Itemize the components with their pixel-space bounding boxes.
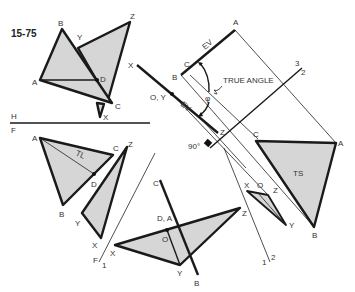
label-b: B [59,210,64,219]
label-x: X [244,181,250,190]
label-b: B [312,231,317,240]
label-x: X [92,241,98,250]
aux3-line-oy [258,193,286,225]
front-point-d [92,172,96,176]
fold-label-1: 1 [102,261,107,270]
fold-label-1: 1 [262,258,267,267]
label-da: D, A [157,214,173,223]
label-c: C [184,60,190,69]
fold-label-2: 2 [301,68,306,77]
label-z: Z [242,209,247,218]
label-x: X [110,249,116,258]
label-oy: O, Y [150,93,167,102]
leader-true-angle [214,86,222,94]
label-phi: φ [205,94,210,103]
fold-label-f: F [11,126,16,135]
label-c: C [115,102,121,111]
fold-label-2: 2 [271,253,276,262]
fold-label-3: 3 [295,59,300,68]
label-d: D [91,180,97,189]
aux1-point-da [165,228,169,232]
top-view: A B C D Y Z X [32,12,135,122]
label-a: A [233,18,239,27]
label-b: B [194,279,199,288]
label-o: O [162,235,168,244]
label-y: Y [75,219,81,228]
aux-view-1: C B D, A O X Z Y [110,179,247,288]
label-z: Z [273,186,278,195]
aux2-point-oy [170,92,174,96]
label-ts: TS [293,169,303,178]
aux-view-3: TS C A B X O Z Y [244,130,344,240]
right-angle-mark [204,139,212,147]
label-true-angle: TRUE ANGLE [223,76,274,85]
drawing: 15-75 A B C D Y Z X H F A C B D TL Z Y X… [0,0,355,292]
label-b: B [58,19,63,28]
label-90: 90° [188,142,200,151]
descriptive-geometry-figure: 15-75 A B C D Y Z X H F A C B D TL Z Y X… [0,0,355,292]
label-z: Z [130,12,135,21]
label-a: A [338,139,344,148]
label-c: C [253,130,259,139]
label-o: O [257,181,263,190]
label-c: C [153,179,159,188]
label-b: B [172,73,177,82]
angle-arc-upper [200,63,209,92]
projector-a [235,30,336,143]
aux3-triangle-abc-ts [256,141,336,227]
label-y: Y [289,221,295,230]
projector-z [204,122,246,168]
front-view: A C B D TL Z Y X [32,134,133,250]
label-z: Z [128,140,133,149]
label-y: Y [177,269,183,278]
label-x: X [128,61,134,70]
label-x: X [103,113,109,122]
label-a: A [32,134,38,143]
fold-label-f: F [93,256,98,265]
label-y: Y [77,33,83,42]
label-a: A [32,78,38,87]
fold-label-h: H [11,112,17,121]
label-c: C [113,144,119,153]
top-point-d [95,78,99,82]
figure-number: 15-75 [11,28,37,39]
label-d: D [100,75,106,84]
aux-view-2: X O, Y Z B C A EV EV φ TRUE ANGLE 90° [128,18,274,151]
